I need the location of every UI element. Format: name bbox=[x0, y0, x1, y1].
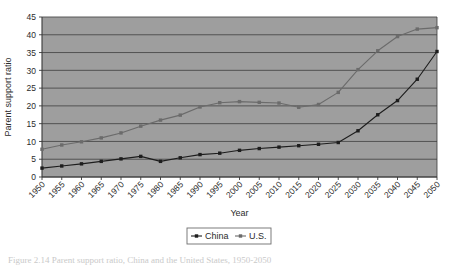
data-point-marker bbox=[435, 50, 438, 53]
data-point-marker bbox=[80, 140, 83, 143]
data-point-marker bbox=[317, 143, 320, 146]
data-point-marker bbox=[258, 101, 261, 104]
x-tick-label: 2000 bbox=[224, 179, 245, 200]
data-point-marker bbox=[100, 160, 103, 163]
data-point-marker bbox=[218, 151, 221, 154]
data-point-marker bbox=[159, 118, 162, 121]
data-point-marker bbox=[238, 149, 241, 152]
data-point-marker bbox=[396, 99, 399, 102]
legend-label-china: China bbox=[205, 231, 229, 241]
x-tick-label: 1995 bbox=[204, 179, 225, 200]
data-point-marker bbox=[119, 157, 122, 160]
x-tick-label: 1950 bbox=[26, 179, 47, 200]
x-tick-label: 1960 bbox=[66, 179, 87, 200]
data-point-marker bbox=[198, 153, 201, 156]
y-tick-label: 30 bbox=[27, 66, 37, 76]
x-tick-label: 1970 bbox=[105, 179, 126, 200]
data-point-marker bbox=[297, 144, 300, 147]
x-tick-label: 1990 bbox=[184, 179, 205, 200]
y-tick-label: 25 bbox=[27, 83, 37, 93]
data-point-marker bbox=[435, 26, 438, 29]
x-tick-label: 1955 bbox=[46, 179, 67, 200]
y-axis-title: Parent support ratio bbox=[3, 57, 13, 136]
data-point-marker bbox=[60, 143, 63, 146]
data-point-marker bbox=[198, 105, 201, 108]
plot-area-background bbox=[42, 17, 437, 177]
data-point-marker bbox=[258, 147, 261, 150]
data-point-marker bbox=[139, 124, 142, 127]
data-point-marker bbox=[100, 136, 103, 139]
figure-container: 0510152025303540451950195519601965197019… bbox=[0, 0, 454, 265]
parent-support-ratio-line-chart: 0510152025303540451950195519601965197019… bbox=[0, 0, 454, 265]
x-tick-label: 2025 bbox=[323, 179, 344, 200]
x-tick-label: 2035 bbox=[362, 179, 383, 200]
data-point-marker bbox=[139, 155, 142, 158]
data-point-marker bbox=[376, 49, 379, 52]
y-tick-label: 5 bbox=[31, 154, 36, 164]
data-point-marker bbox=[337, 91, 340, 94]
x-tick-label: 2015 bbox=[283, 179, 304, 200]
x-tick-label: 1985 bbox=[165, 179, 186, 200]
y-tick-label: 45 bbox=[27, 12, 37, 22]
data-point-marker bbox=[277, 145, 280, 148]
x-tick-label: 2005 bbox=[244, 179, 265, 200]
data-point-marker bbox=[179, 113, 182, 116]
x-tick-label: 1980 bbox=[145, 179, 166, 200]
data-point-marker bbox=[297, 106, 300, 109]
x-tick-label: 2050 bbox=[421, 179, 442, 200]
x-tick-label: 1965 bbox=[86, 179, 107, 200]
y-tick-label: 40 bbox=[27, 30, 37, 40]
data-point-marker bbox=[376, 113, 379, 116]
x-tick-label: 2020 bbox=[303, 179, 324, 200]
x-tick-label: 2010 bbox=[263, 179, 284, 200]
data-point-marker bbox=[40, 148, 43, 151]
data-point-marker bbox=[80, 162, 83, 165]
y-tick-label: 15 bbox=[27, 119, 37, 129]
data-point-marker bbox=[356, 68, 359, 71]
data-point-marker bbox=[218, 101, 221, 104]
x-tick-label: 2040 bbox=[382, 179, 403, 200]
y-tick-label: 35 bbox=[27, 48, 37, 58]
data-point-marker bbox=[159, 160, 162, 163]
y-tick-label: 0 bbox=[31, 172, 36, 182]
legend-marker-swatch bbox=[239, 234, 242, 237]
x-tick-label: 2030 bbox=[342, 179, 363, 200]
data-point-marker bbox=[119, 131, 122, 134]
data-point-marker bbox=[317, 103, 320, 106]
data-point-marker bbox=[40, 166, 43, 169]
data-point-marker bbox=[416, 78, 419, 81]
legend-marker-swatch bbox=[195, 234, 198, 237]
data-point-marker bbox=[60, 164, 63, 167]
y-tick-label: 10 bbox=[27, 137, 37, 147]
x-tick-label: 1975 bbox=[125, 179, 146, 200]
legend-label-us: U.S. bbox=[249, 231, 267, 241]
y-tick-label: 20 bbox=[27, 101, 37, 111]
data-point-marker bbox=[416, 27, 419, 30]
data-point-marker bbox=[179, 156, 182, 159]
data-point-marker bbox=[277, 101, 280, 104]
x-axis-title: Year bbox=[230, 208, 248, 218]
data-point-marker bbox=[356, 129, 359, 132]
data-point-marker bbox=[396, 35, 399, 38]
data-point-marker bbox=[337, 141, 340, 144]
x-tick-label: 2045 bbox=[402, 179, 423, 200]
data-point-marker bbox=[238, 100, 241, 103]
figure-caption: Figure 2.14 Parent support ratio, China … bbox=[8, 255, 450, 265]
